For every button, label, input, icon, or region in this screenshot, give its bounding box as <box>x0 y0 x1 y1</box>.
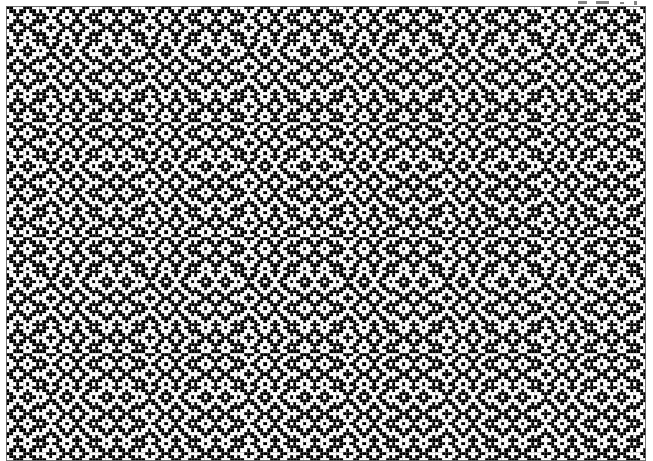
weaving-draft-figure <box>0 0 653 461</box>
scan-artifact-mark <box>596 1 609 4</box>
scan-artifact-mark <box>578 1 587 4</box>
scan-artifact-mark <box>634 1 637 5</box>
drawdown-grid <box>6 6 646 461</box>
scan-artifact-mark <box>620 2 624 4</box>
